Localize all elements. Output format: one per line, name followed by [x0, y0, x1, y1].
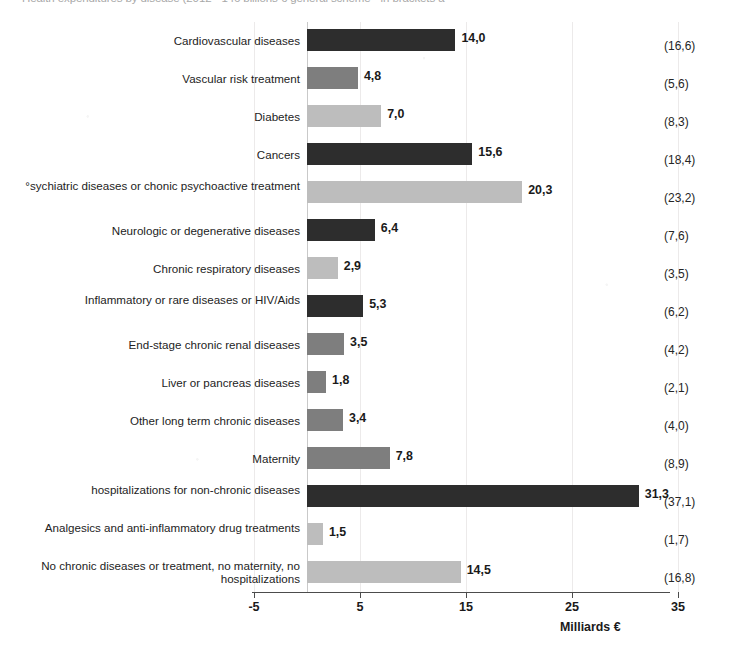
category-label: Cancers	[8, 148, 300, 161]
bar-value-label: 7,8	[396, 449, 413, 463]
bar-value-label: 2,9	[344, 259, 361, 273]
chart-row: Liver or pancreas diseases1,8(2,1)	[0, 364, 731, 400]
bar[interactable]	[307, 257, 338, 279]
chart-row: Vascular risk treatment4,8(5,6)	[0, 60, 731, 96]
bar-value-label: 5,3	[369, 297, 386, 311]
bar-value-label: 3,5	[350, 335, 367, 349]
bracket-value-label: (16,6)	[664, 39, 695, 53]
x-axis-line	[252, 592, 670, 593]
bar-value-label: 15,6	[478, 145, 502, 159]
x-axis-title: Milliards €	[560, 620, 621, 634]
bar-value-label: 14,5	[467, 563, 491, 577]
chart-row: Maternity7,8(8,9)	[0, 440, 731, 476]
bracket-value-label: (2,1)	[664, 381, 689, 395]
category-label: Vascular risk treatment	[8, 72, 300, 85]
category-label: Diabetes	[8, 110, 300, 123]
bar-value-label: 14,0	[461, 31, 485, 45]
bar-value-label: 7,0	[387, 107, 404, 121]
bar-value-label: 6,4	[381, 221, 398, 235]
bracket-value-label: (18,4)	[664, 153, 695, 167]
chart-title: Health expenditures by disease (2012 - 1…	[22, 0, 722, 5]
category-label: Chronic respiratory diseases	[8, 262, 300, 275]
category-label: No chronic diseases or treatment, no mat…	[8, 559, 300, 585]
bracket-value-label: (8,9)	[664, 457, 689, 471]
chart-row: Cancers15,6(18,4)	[0, 136, 731, 172]
tick-label: -5	[248, 600, 259, 614]
chart-row: Cardiovascular diseases14,0(16,6)	[0, 22, 731, 58]
bracket-value-label: (4,0)	[664, 419, 689, 433]
bar[interactable]	[307, 371, 326, 393]
bar[interactable]	[307, 447, 390, 469]
chart-row: Neurologic or degenerative diseases6,4(7…	[0, 212, 731, 248]
bar[interactable]	[307, 143, 472, 165]
chart-row: Inflammatory or rare diseases or HIV/Aid…	[0, 288, 731, 324]
tick-mark	[466, 592, 467, 598]
bracket-value-label: (16,8)	[664, 571, 695, 585]
category-label: hospitalizations for non-chronic disease…	[8, 483, 300, 496]
tick-mark	[254, 592, 255, 598]
category-label: End-stage chronic renal diseases	[8, 338, 300, 351]
bar[interactable]	[307, 105, 381, 127]
bracket-value-label: (8,3)	[664, 115, 689, 129]
bar[interactable]	[307, 523, 323, 545]
chart-row: Diabetes7,0(8,3)	[0, 98, 731, 134]
category-label: °sychiatric diseases or chonic psychoact…	[8, 179, 300, 192]
tick-mark	[678, 592, 679, 598]
category-label: Liver or pancreas diseases	[8, 376, 300, 389]
chart-row: No chronic diseases or treatment, no mat…	[0, 554, 731, 590]
bar-value-label: 20,3	[528, 183, 552, 197]
bar[interactable]	[307, 67, 358, 89]
tick-mark	[360, 592, 361, 598]
chart-row: Analgesics and anti-inflammatory drug tr…	[0, 516, 731, 552]
chart-row: °sychiatric diseases or chonic psychoact…	[0, 174, 731, 210]
bar-value-label: 3,4	[349, 411, 366, 425]
category-label: Maternity	[8, 452, 300, 465]
bracket-value-label: (23,2)	[664, 191, 695, 205]
bracket-value-label: (6,2)	[664, 305, 689, 319]
bar[interactable]	[307, 295, 363, 317]
tick-label: 15	[459, 600, 473, 614]
bar[interactable]	[307, 333, 344, 355]
bracket-value-label: (3,5)	[664, 267, 689, 281]
bracket-value-label: (5,6)	[664, 77, 689, 91]
bar[interactable]	[307, 409, 343, 431]
category-label: Analgesics and anti-inflammatory drug tr…	[8, 521, 300, 534]
chart-row: Other long term chronic diseases3,4(4,0)	[0, 402, 731, 438]
tick-label: 35	[671, 600, 685, 614]
bracket-value-label: (4,2)	[664, 343, 689, 357]
bar[interactable]	[307, 181, 522, 203]
category-label: Inflammatory or rare diseases or HIV/Aid…	[8, 293, 300, 306]
bracket-value-label: (1,7)	[664, 533, 689, 547]
category-label: Cardiovascular diseases	[8, 34, 300, 47]
tick-label: 25	[565, 600, 579, 614]
bar[interactable]	[307, 485, 639, 507]
category-label: Neurologic or degenerative diseases	[8, 224, 300, 237]
bracket-value-label: (37,1)	[664, 495, 695, 509]
tick-label: 5	[356, 600, 363, 614]
chart-row: hospitalizations for non-chronic disease…	[0, 478, 731, 514]
bar[interactable]	[307, 29, 455, 51]
bar[interactable]	[307, 219, 375, 241]
chart-row: End-stage chronic renal diseases3,5(4,2)	[0, 326, 731, 362]
bar-value-label: 1,8	[332, 373, 349, 387]
bar-chart: Health expenditures by disease (2012 - 1…	[0, 0, 731, 647]
bar-value-label: 1,5	[329, 525, 346, 539]
bracket-value-label: (7,6)	[664, 229, 689, 243]
bar-value-label: 4,8	[364, 69, 381, 83]
category-label: Other long term chronic diseases	[8, 414, 300, 427]
chart-row: Chronic respiratory diseases2,9(3,5)	[0, 250, 731, 286]
bar[interactable]	[307, 561, 461, 583]
tick-mark	[572, 592, 573, 598]
